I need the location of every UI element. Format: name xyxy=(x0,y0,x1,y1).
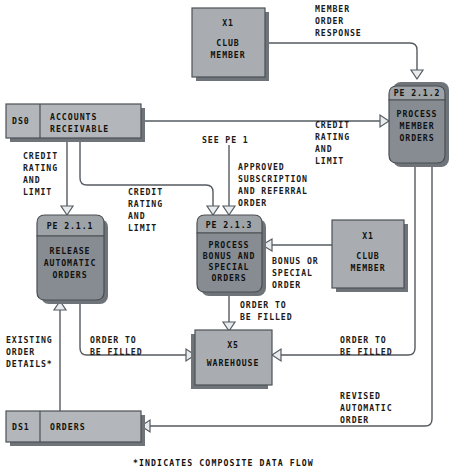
flow-label-line: SEE PE 1 xyxy=(202,135,249,145)
flow-label-line: BE FILLED xyxy=(240,312,292,322)
flow-label-line: ORDER TO xyxy=(90,335,137,345)
flow-label-order-to-be-filled-left: ORDER TO BE FILLED xyxy=(90,335,142,357)
entity-code: X1 xyxy=(222,18,234,28)
flow-label-line: ORDER xyxy=(272,280,301,290)
entity-x5-warehouse[interactable]: X5 WAREHOUSE xyxy=(191,330,272,389)
flow-label-credit-rating-limit-mid: CREDIT RATING AND LIMIT xyxy=(128,187,163,233)
flow-label-see-pe-1: SEE PE 1 xyxy=(202,135,249,145)
process-name-line3: SPECIAL xyxy=(209,262,250,272)
flow-label-line: ORDER xyxy=(238,198,267,208)
flow-label-order-to-be-filled-down: ORDER TO BE FILLED xyxy=(240,300,292,322)
flow-label-existing-order-details: EXISTING ORDER DETAILS* xyxy=(6,335,53,369)
flow-label-line: ORDER TO xyxy=(340,335,387,345)
flow-label-member-order-response: MEMBER ORDER RESPONSE xyxy=(315,4,362,38)
datastore-name-line1: ACCOUNTS xyxy=(50,112,97,122)
flow-label-line: AND xyxy=(23,175,41,185)
datastore-code: DS0 xyxy=(12,116,30,126)
arrowhead-approved-subscription xyxy=(223,206,235,215)
arrowhead-credit-rating-pe212 xyxy=(380,115,389,127)
flow-label-line: RESPONSE xyxy=(315,28,362,38)
flow-label-line: REVISED xyxy=(340,391,381,401)
flow-label-line: AND xyxy=(315,144,333,154)
datastore-code: DS1 xyxy=(12,422,30,432)
datastore-ds0-accounts-receivable[interactable]: DS0 ACCOUNTS RECEIVABLE xyxy=(6,104,145,142)
process-name-line3: ORDERS xyxy=(53,270,88,280)
process-name-line1: RELEASE xyxy=(50,246,91,256)
process-name-line2: MEMBER xyxy=(400,121,435,131)
arrowhead-order-filled-right xyxy=(272,349,281,361)
flow-label-line: AND xyxy=(128,211,146,221)
flow-label-order-to-be-filled-right: ORDER TO BE FILLED xyxy=(340,335,392,357)
datastore-name-line2: RECEIVABLE xyxy=(50,124,109,134)
flow-label-credit-rating-limit-right: CREDIT RATING AND LIMIT xyxy=(315,120,350,166)
entity-name-line1: CLUB xyxy=(356,251,379,261)
entity-code: X1 xyxy=(362,231,374,241)
flow-member-order-response xyxy=(265,43,417,70)
process-number: PE 2.1.2 xyxy=(394,88,441,98)
process-number: PE 2.1.3 xyxy=(206,220,253,230)
flow-label-line: MEMBER xyxy=(315,4,350,14)
entity-name-line2: MEMBER xyxy=(211,50,246,60)
arrowhead-member-order-response xyxy=(411,70,423,79)
flow-label-line: RATING xyxy=(128,199,163,209)
flow-label-line: RATING xyxy=(315,132,350,142)
process-name-line3: ORDERS xyxy=(400,133,435,143)
flow-label-line: LIMIT xyxy=(128,223,157,233)
flow-label-bonus-or-special-order: BONUS OR SPECIAL ORDER xyxy=(272,256,319,290)
flow-label-line: LIMIT xyxy=(23,187,52,197)
flow-label-line: SUBSCRIPTION xyxy=(238,174,308,184)
flow-label-line: AUTOMATIC xyxy=(340,403,392,413)
arrowhead-credit-rating-pe213 xyxy=(207,206,219,215)
process-name-line2: BONUS AND xyxy=(203,251,255,261)
flow-label-line: CREDIT xyxy=(128,187,163,197)
arrowhead-credit-rating-pe211 xyxy=(61,206,73,215)
flow-label-line: LIMIT xyxy=(315,156,344,166)
flow-label-line: AND REFERRAL xyxy=(238,186,308,196)
entity-code: X5 xyxy=(227,340,239,350)
flow-label-line: ORDER TO xyxy=(240,300,287,310)
entity-name-line1: CLUB xyxy=(216,38,239,48)
datastore-ds1-orders[interactable]: DS1 ORDERS xyxy=(6,411,145,446)
flow-label-line: ORDER xyxy=(315,16,344,26)
process-name-line1: PROCESS xyxy=(397,109,438,119)
process-pe-2-1-1[interactable]: PE 2.1.1 RELEASE AUTOMATIC ORDERS xyxy=(37,215,108,304)
process-name-line1: PROCESS xyxy=(209,240,250,250)
flow-label-line: DETAILS* xyxy=(6,359,53,369)
entity-name-line2: MEMBER xyxy=(351,263,386,273)
flow-label-approved-subscription-order: APPROVED SUBSCRIPTION AND REFERRAL ORDER xyxy=(238,162,308,208)
dfd-canvas: X1 CLUB MEMBER DS0 ACCOUNTS RECEIVABLE P… xyxy=(0,0,453,474)
process-pe-2-1-2[interactable]: PE 2.1.2 PROCESS MEMBER ORDERS xyxy=(389,82,449,167)
flow-label-line: CREDIT xyxy=(315,120,350,130)
process-name-line4: ORDERS xyxy=(212,273,247,283)
flow-label-line: RATING xyxy=(23,163,58,173)
entity-name-line1: WAREHOUSE xyxy=(207,358,259,368)
flow-label-line: BE FILLED xyxy=(340,347,392,357)
flow-label-line: CREDIT xyxy=(23,151,58,161)
process-number: PE 2.1.1 xyxy=(47,221,94,231)
flow-label-line: ORDER xyxy=(6,347,35,357)
flow-label-line: SPECIAL xyxy=(272,268,313,278)
flow-label-line: BONUS OR xyxy=(272,256,319,266)
flow-label-revised-automatic-order: REVISED AUTOMATIC ORDER xyxy=(340,391,392,425)
entity-x1-club-member-top[interactable]: X1 CLUB MEMBER xyxy=(192,8,269,81)
process-pe-2-1-3[interactable]: PE 2.1.3 PROCESS BONUS AND SPECIAL ORDER… xyxy=(197,215,266,296)
flow-label-line: BE FILLED xyxy=(90,347,142,357)
flow-label-line: APPROVED xyxy=(238,162,285,172)
footnote: *INDICATES COMPOSITE DATA FLOW xyxy=(133,458,314,468)
flow-label-line: ORDER xyxy=(340,415,369,425)
process-name-line2: AUTOMATIC xyxy=(44,258,96,268)
entity-x1-club-member-right[interactable]: X1 CLUB MEMBER xyxy=(332,220,408,292)
datastore-name-line1: ORDERS xyxy=(50,422,86,432)
flow-label-credit-rating-limit-left: CREDIT RATING AND LIMIT xyxy=(23,151,58,197)
flow-label-line: EXISTING xyxy=(6,335,53,345)
